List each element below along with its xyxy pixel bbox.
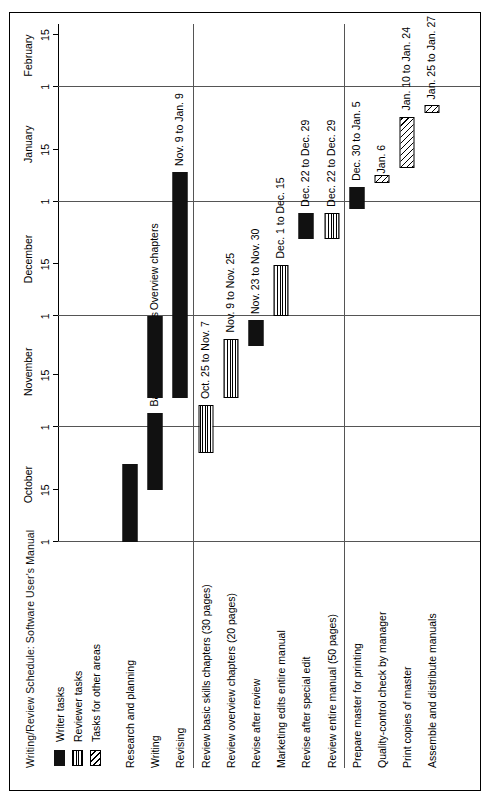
rotated-chart-container: Writing/Review Schedule: Software User's… <box>0 0 491 799</box>
month-gridline <box>58 86 480 87</box>
gantt-bar[interactable] <box>324 213 339 239</box>
month-gridline <box>58 426 480 427</box>
gantt-bar[interactable] <box>148 316 163 397</box>
gantt-bar[interactable] <box>123 464 138 542</box>
gantt-bar[interactable] <box>173 172 188 398</box>
bar-date-note: Nov. 23 to Nov. 30 <box>249 229 261 314</box>
plot-area: Research and planningWritingRevisingRevi… <box>10 13 480 790</box>
task-label: Review entire manual (50 pages) <box>326 554 338 768</box>
gantt-bar[interactable] <box>223 339 238 398</box>
month-gridline <box>58 201 480 202</box>
task-label: Review basic skills chapters (30 pages) <box>200 554 212 768</box>
bar-date-note: Dec. 22 to Dec. 29 <box>299 120 311 207</box>
bar-date-note: Nov. 9 to Nov. 25 <box>224 253 236 333</box>
task-label: Revising <box>174 554 186 768</box>
task-label: Print copies of master <box>401 554 413 768</box>
task-label: Revise after review <box>250 554 262 768</box>
gantt-chart-page: Writing/Review Schedule: Software User's… <box>0 0 491 799</box>
bar-date-note: Jan. 6 <box>375 145 387 174</box>
task-label: Prepare master for printing <box>351 554 363 768</box>
bar-date-note: Jan. 10 to Jan. 24 <box>400 27 412 110</box>
gantt-bar[interactable] <box>198 405 213 453</box>
bar-date-note: Nov. 9 to Jan. 9 <box>173 93 185 166</box>
bar-date-note: Oct. 25 to Nov. 7 <box>199 321 211 399</box>
bar-date-note: Dec. 1 to Dec. 15 <box>274 177 286 258</box>
gantt-bar[interactable] <box>375 175 390 183</box>
gantt-bar[interactable] <box>148 413 163 491</box>
gantt-bar[interactable] <box>274 265 289 317</box>
gantt-bar[interactable] <box>425 105 440 113</box>
group-separator <box>193 24 194 768</box>
task-label: Assemble and distribute manuals <box>426 554 438 768</box>
bar-date-note: Jan. 25 to Jan. 27 <box>425 16 437 99</box>
bar-date-note: Overview chapters <box>148 223 160 310</box>
gantt-bar[interactable] <box>349 187 364 209</box>
task-label: Review overview chapters (20 pages) <box>225 554 237 768</box>
task-label: Research and planning <box>124 554 136 768</box>
gantt-bar[interactable] <box>299 213 314 239</box>
bar-date-note: Dec. 30 to Jan. 5 <box>350 101 362 180</box>
gantt-bar[interactable] <box>400 117 415 169</box>
task-label: Writing <box>149 554 161 768</box>
group-separator <box>344 24 345 768</box>
timeline-left-edge <box>58 541 480 542</box>
gantt-bar[interactable] <box>249 320 264 346</box>
month-gridline <box>58 315 480 316</box>
bar-date-note: Dec. 22 to Dec. 29 <box>325 120 337 207</box>
task-label: Marketing edits entire manual <box>275 554 287 768</box>
chart-frame: Writing/Review Schedule: Software User's… <box>9 12 481 791</box>
task-label: Revise after special edit <box>300 554 312 768</box>
task-label: Quality-control check by manager <box>376 554 388 768</box>
